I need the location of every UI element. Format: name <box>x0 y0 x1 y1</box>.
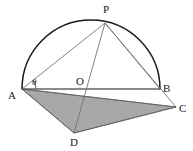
segment-line-pc <box>105 23 176 107</box>
geometry-figure: A B C D O P θ <box>0 0 193 151</box>
vertex-label-d: D <box>70 137 78 148</box>
geometry-canvas <box>0 0 193 151</box>
semicircle-arc <box>22 20 160 89</box>
vertex-label-o: O <box>76 76 84 87</box>
angle-theta-label: θ <box>32 78 36 87</box>
vertex-label-a: A <box>8 90 16 101</box>
vertex-label-p: P <box>103 4 109 15</box>
vertex-label-b: B <box>163 83 170 94</box>
vertex-label-c: C <box>179 103 186 114</box>
